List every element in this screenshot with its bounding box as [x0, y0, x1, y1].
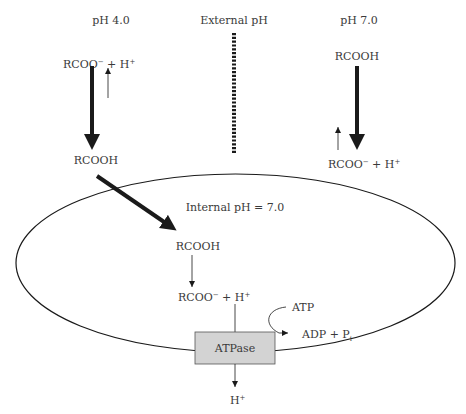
atp-hydrolysis-arrow: [269, 307, 288, 333]
internal-dissociated-species: RCOO− + H+: [178, 291, 250, 304]
right-top-species: RCOOH: [335, 50, 379, 63]
internal-ph-label: Internal pH = 7.0: [186, 201, 285, 214]
proton-charge: +: [394, 158, 400, 166]
proton-charge: +: [244, 291, 250, 299]
right-bottom-species: RCOO− + H+: [328, 158, 400, 171]
left-ph-label: pH 4.0: [92, 14, 130, 27]
plus-proton: + H: [219, 291, 245, 304]
right-ph-label: pH 7.0: [340, 14, 378, 27]
expelled-proton: H+: [230, 394, 246, 407]
species-base: RCOO: [178, 291, 213, 304]
diffusion-arrow: [97, 176, 170, 226]
left-bottom-species: RCOOH: [74, 154, 118, 167]
adp-label: ADP + Pi: [301, 328, 353, 343]
proton-charge: +: [129, 58, 135, 66]
proton-charge: +: [240, 394, 246, 402]
internal-rcooh: RCOOH: [176, 240, 220, 253]
left-top-species: RCOO− + H+: [63, 58, 135, 71]
pi-subscript: i: [350, 335, 353, 343]
atp-label: ATP: [291, 301, 315, 314]
plus-proton: + H: [104, 58, 130, 71]
species-base: RCOO: [328, 158, 363, 171]
adp-base: ADP + P: [301, 328, 350, 341]
external-ph-label: External pH: [200, 14, 268, 27]
proton-base: H: [230, 394, 240, 407]
plus-proton: + H: [369, 158, 395, 171]
acid-uptake-diagram: pH 4.0 External pH pH 7.0 RCOO− + H+ RCO…: [0, 0, 466, 414]
atpase-label: ATPase: [214, 342, 255, 355]
